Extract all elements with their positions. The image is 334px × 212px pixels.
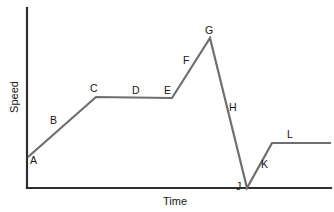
point-label-d: D: [132, 84, 140, 96]
point-label-b: B: [50, 114, 57, 126]
y-axis-title: Speed: [8, 81, 20, 113]
point-label-f: F: [183, 54, 189, 66]
speed-curve: [28, 38, 331, 188]
point-label-a: A: [30, 154, 37, 166]
x-axis-title: Time: [163, 195, 187, 207]
point-label-g: G: [205, 24, 213, 36]
point-label-k: K: [261, 158, 268, 170]
point-label-c: C: [90, 82, 98, 94]
speed-time-graph-figure: Speed Time A B C D E F G H J K L: [0, 0, 334, 212]
graph-canvas: Speed Time A B C D E F G H J K L: [0, 0, 334, 212]
point-label-e: E: [164, 84, 171, 96]
point-label-l: L: [287, 128, 293, 140]
point-label-h: H: [229, 101, 237, 113]
point-label-j: J: [236, 180, 241, 192]
